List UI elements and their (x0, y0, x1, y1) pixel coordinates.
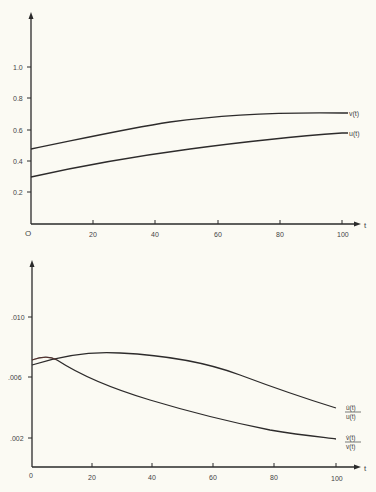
u-growth-label: u̇(t) u(t) (345, 404, 361, 421)
v-growth-curve (32, 357, 336, 439)
v-growth-denominator: v(t) (346, 443, 355, 451)
top-xtick-20: 20 (89, 231, 97, 238)
bottom-xtick-40: 40 (148, 474, 156, 481)
top-chart: 1.0 0.8 0.6 0.4 0.2 O 20 40 60 80 100 t … (13, 12, 367, 238)
top-ytick-0.4: 0.4 (13, 158, 23, 165)
u-growth-numerator: u̇(t) (346, 404, 356, 412)
bottom-xtick-60: 60 (209, 474, 217, 481)
top-xtick-40: 40 (151, 231, 159, 238)
top-x-axis-label: t (364, 221, 367, 230)
top-xtick-80: 80 (276, 231, 284, 238)
top-ytick-0.8: 0.8 (13, 95, 23, 102)
v-growth-label: v̇(t) v(t) (345, 434, 361, 451)
top-x-axis-arrow-icon (354, 222, 361, 227)
top-xtick-100: 100 (337, 231, 349, 238)
bottom-y-axis-arrow-icon (30, 260, 35, 267)
bottom-origin-label: 0 (29, 472, 33, 479)
bottom-chart: .010 .006 .002 0 20 40 60 80 100 t u̇(t)… (8, 260, 367, 482)
top-ytick-1.0: 1.0 (13, 64, 23, 71)
top-ytick-0.6: 0.6 (13, 127, 23, 134)
figure: 1.0 0.8 0.6 0.4 0.2 O 20 40 60 80 100 t … (0, 0, 376, 492)
bottom-xtick-20: 20 (88, 474, 96, 481)
bottom-xtick-80: 80 (270, 474, 278, 481)
bottom-x-axis-arrow-icon (354, 465, 361, 470)
bottom-x-axis-label: t (364, 464, 367, 473)
top-y-axis-arrow-icon (29, 12, 34, 19)
bottom-xtick-100: 100 (331, 475, 343, 482)
top-xtick-60: 60 (214, 231, 222, 238)
u-curve-label: u(t) (349, 130, 360, 138)
top-ytick-0.2: 0.2 (13, 189, 23, 196)
v-curve-label: v(t) (349, 110, 359, 118)
bottom-ytick-.006: .006 (8, 374, 22, 381)
bottom-ytick-.002: .002 (10, 435, 24, 442)
u-growth-curve (32, 353, 336, 408)
u-growth-denominator: u(t) (346, 413, 356, 421)
top-origin-label: O (25, 229, 31, 238)
v-growth-numerator: v̇(t) (346, 434, 355, 442)
v-curve (31, 113, 348, 149)
bottom-ytick-.010: .010 (11, 314, 25, 321)
